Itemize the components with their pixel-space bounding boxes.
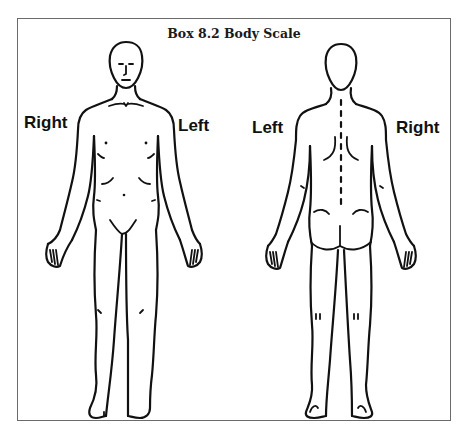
front-body-figure [46,42,202,418]
back-head [326,44,357,90]
front-head [110,42,143,88]
body-diagram [0,0,468,435]
back-body-figure [266,44,416,418]
